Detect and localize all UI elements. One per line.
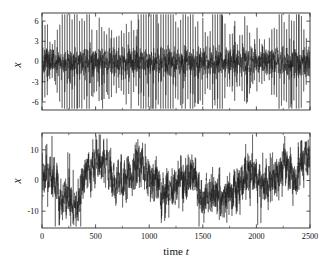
x-axis-label-text: time: [163, 245, 185, 257]
ytick-label: -10: [28, 207, 39, 216]
ytick-label: -3: [32, 78, 39, 87]
xtick-label: 1000: [141, 232, 157, 241]
xtick-label: 500: [89, 232, 101, 241]
xtick-label: 2500: [302, 232, 318, 241]
figure-container: 630-3-6 x 100-10 05001000150020002500 x …: [0, 0, 324, 263]
xtick-label: 1500: [195, 232, 211, 241]
ytick-label: 6: [34, 17, 38, 26]
time-series-figure: 630-3-6 x 100-10 05001000150020002500 x …: [0, 0, 324, 263]
ytick-label: 0: [34, 176, 38, 185]
xtick-label: 2000: [248, 232, 264, 241]
figure-background: [0, 0, 324, 263]
ytick-label: 10: [30, 146, 38, 155]
ytick-label: 0: [34, 57, 38, 66]
xtick-label: 0: [40, 232, 44, 241]
top-panel-y-axis-label: x: [11, 62, 23, 69]
ytick-label: 3: [34, 37, 38, 46]
bottom-panel-x-axis-label: time t: [163, 245, 189, 257]
ytick-label: -6: [32, 98, 39, 107]
bottom-panel-y-axis-label: x: [11, 178, 23, 185]
